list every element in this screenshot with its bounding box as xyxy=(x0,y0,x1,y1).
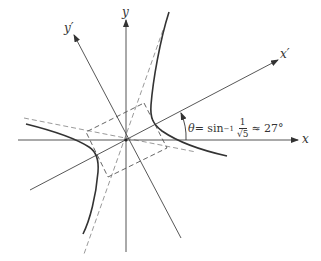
y-prime-axis-label: y′ xyxy=(64,22,74,34)
inverse-exponent: −1 xyxy=(224,125,234,133)
asymptote-2 xyxy=(84,30,163,254)
asymptotes xyxy=(24,30,196,254)
approx-value: ≈ 27° xyxy=(251,122,283,135)
angle-arc xyxy=(181,113,186,140)
angle-annotation: θ = sin−1 1 √5 ≈ 27° xyxy=(188,118,284,139)
origin-point xyxy=(124,138,127,141)
fraction: 1 √5 xyxy=(237,118,248,139)
y-axis-label: y xyxy=(122,6,129,18)
sin-text: = sin xyxy=(195,122,224,135)
fraction-denominator: √5 xyxy=(237,129,248,139)
asymptote-1 xyxy=(24,118,196,152)
theta-symbol: θ xyxy=(188,122,195,135)
fraction-numerator: 1 xyxy=(239,118,247,129)
x-prime-axis-label: x′ xyxy=(280,48,290,60)
y-prime-axis xyxy=(74,35,181,238)
x-axis-label: x xyxy=(302,133,309,145)
